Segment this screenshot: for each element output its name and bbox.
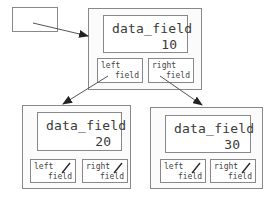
right-field-label-1: right: [214, 162, 238, 171]
tree-node-left-child: data_field 20 left field right field: [22, 105, 131, 189]
left-field-box: left field: [97, 58, 143, 83]
left-field-label-1: left: [34, 162, 53, 171]
root-pointer-box: [12, 7, 58, 32]
data-field-label: data_field: [112, 21, 192, 36]
left-field-label-1: left: [101, 61, 120, 70]
data-field-value: 20: [95, 134, 111, 149]
data-field-value: 30: [224, 137, 240, 152]
data-field-box: data_field 30: [165, 115, 251, 153]
left-field-box: left field: [30, 159, 76, 183]
tree-node-right-child: data_field 30 left field right field: [150, 107, 263, 189]
data-field-box: data_field 10: [103, 15, 188, 53]
right-field-label-2: field: [100, 172, 124, 181]
left-field-label-2: field: [115, 71, 139, 80]
right-field-label-2: field: [228, 172, 252, 181]
data-field-box: data_field 20: [37, 112, 122, 151]
left-field-label-2: field: [48, 172, 72, 181]
left-field-label-1: left: [164, 162, 183, 171]
left-field-box: left field: [160, 159, 206, 183]
right-field-box: right field: [82, 159, 128, 183]
right-field-box: right field: [148, 58, 194, 83]
right-field-label-1: right: [152, 61, 176, 70]
right-field-box: right field: [210, 159, 256, 183]
data-field-label: data_field: [46, 118, 126, 133]
tree-node-root: data_field 10 left field right field: [88, 8, 202, 90]
data-field-label: data_field: [174, 121, 254, 136]
data-field-value: 10: [161, 37, 177, 52]
right-field-label-1: right: [86, 162, 110, 171]
left-field-label-2: field: [178, 172, 202, 181]
right-field-label-2: field: [166, 71, 190, 80]
